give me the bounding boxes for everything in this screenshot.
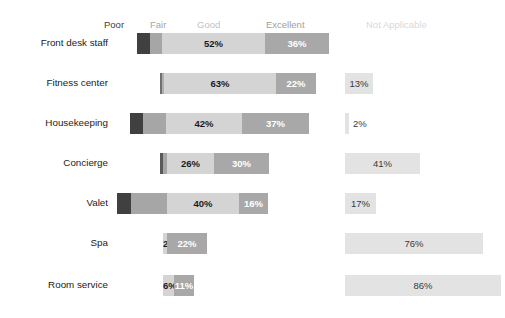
bar-segment-poor [130,113,143,134]
bar-segment-fair [131,193,167,214]
chart-row: Valet40%16%17% [0,188,505,218]
bar-segment-value: 2% [349,113,393,134]
category-label: Spa [0,228,108,258]
bar-segment-not-applicable: 86% [345,275,501,296]
bar-segment-excellent: 37% [242,113,309,134]
bar-segment-good: 63% [164,73,276,94]
bar-segment-excellent: 30% [214,153,269,174]
bar-segment-value: 11% [174,275,194,296]
category-label: Housekeeping [0,108,108,138]
bar-segment-value: 52% [162,33,265,54]
category-label: Fitness center [0,68,108,98]
category-label: Front desk staff [0,28,108,58]
bar-segment-value: 22% [276,73,316,94]
chart-row: Housekeeping42%37%2% [0,108,505,138]
bar-segment-fair [150,33,162,54]
category-label: Room service [0,270,108,300]
bar-segment-good: 40% [167,193,239,214]
chart-row: Fitness center63%22%13% [0,68,505,98]
bar-segment-value: 17% [345,193,376,214]
category-label: Valet [0,188,108,218]
bar-segment-fair [143,113,166,134]
bar-segment-value: 36% [265,33,329,54]
bar-segment-excellent: 16% [239,193,268,214]
bar-segment-excellent: 22% [276,73,316,94]
bar-segment-poor [117,193,131,214]
bar-segment-not-applicable: 2% [345,113,349,134]
bar-segment-good: 6% [163,275,174,296]
bar-segment-excellent: 22% [167,233,207,254]
chart-row: Spa2%22%76% [0,228,505,258]
survey-bar-chart: PoorFairGoodExcellentNot Applicable Fron… [0,0,505,318]
bar-segment-value: 16% [239,193,268,214]
bar-segment-value: 37% [242,113,309,134]
bar-segment-value: 22% [167,233,207,254]
bar-segment-value: 40% [167,193,239,214]
chart-row: Concierge26%30%41% [0,148,505,178]
bar-segment-good: 42% [166,113,242,134]
chart-row: Front desk staff52%36% [0,28,505,58]
bar-segment-good: 52% [162,33,265,54]
bar-segment-good: 26% [167,153,214,174]
bar-segment-not-applicable: 76% [345,233,483,254]
bar-segment-value: 42% [166,113,242,134]
bar-segment-not-applicable: 41% [345,153,420,174]
bar-segment-not-applicable: 13% [345,73,373,94]
chart-row: Room service6%11%86% [0,270,505,300]
bar-segment-not-applicable: 17% [345,193,376,214]
bar-segment-excellent: 11% [174,275,194,296]
bar-segment-value: 41% [345,153,420,174]
bar-segment-value: 76% [345,233,483,254]
bar-segment-value: 30% [214,153,269,174]
bar-segment-value: 63% [164,73,276,94]
bar-segment-value: 6% [163,275,174,296]
bar-segment-value: 26% [167,153,214,174]
bar-segment-value: 13% [345,73,373,94]
bar-segment-poor [137,33,150,54]
bar-segment-excellent: 36% [265,33,329,54]
bar-segment-value: 86% [345,275,501,296]
category-label: Concierge [0,148,108,178]
